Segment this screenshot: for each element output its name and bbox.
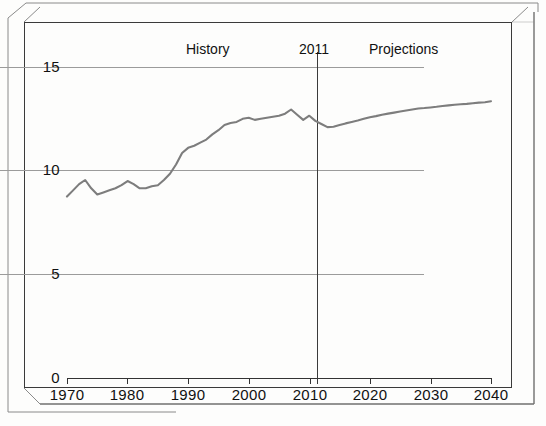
annotation-divider-year: 2011 (299, 41, 329, 57)
xtick-label-2000: 2000 (221, 386, 277, 403)
xtick-1980 (127, 378, 128, 384)
xtick-2030 (431, 378, 432, 384)
xtick-2010 (310, 378, 311, 384)
xtick-label-2040: 2040 (463, 386, 519, 403)
xtick-label-1990: 1990 (160, 386, 216, 403)
chart-figure: 15 10 5 0 1970 1980 1990 2000 2010 2020 … (0, 0, 546, 426)
xtick-2020 (370, 378, 371, 384)
x-axis-line (67, 378, 491, 379)
annotation-projections: Projections (369, 41, 438, 57)
xtick-2040 (491, 378, 492, 384)
ytick-label-10: 10 (26, 161, 60, 178)
data-series-layer (67, 67, 491, 378)
xtick-label-2030: 2030 (403, 386, 459, 403)
xtick-1970 (67, 378, 68, 384)
ytick-label-15: 15 (26, 58, 60, 75)
annotation-history: History (186, 41, 230, 57)
series-line-total-consumption (67, 101, 491, 196)
xtick-2000 (249, 378, 250, 384)
xtick-label-2010: 2010 (282, 386, 338, 403)
ytick-label-0: 0 (26, 369, 60, 386)
xtick-label-1970: 1970 (39, 386, 95, 403)
xtick-label-2020: 2020 (342, 386, 398, 403)
xtick-label-1980: 1980 (99, 386, 155, 403)
ytick-label-5: 5 (26, 265, 60, 282)
xtick-1990 (188, 378, 189, 384)
